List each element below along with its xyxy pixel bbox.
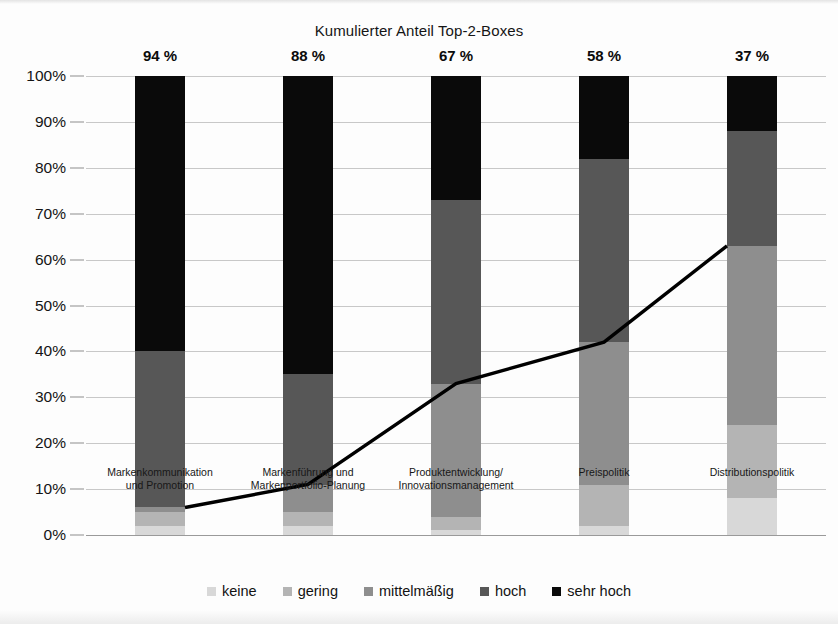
x-axis-label-line: Markenportfolio-Planung — [228, 479, 388, 492]
y-tick-label: 70% — [0, 205, 66, 223]
legend-item-hoch[interactable]: hoch — [480, 583, 526, 599]
bar-segment-gering[interactable] — [135, 512, 185, 526]
x-axis-label-5: Distributionspolitik — [672, 466, 832, 479]
y-tick-label: 0% — [0, 526, 66, 544]
y-tick-mark — [70, 305, 84, 306]
y-tick-label: 10% — [0, 480, 66, 498]
legend-item-sehr-hoch[interactable]: sehr hoch — [552, 583, 631, 599]
y-tick-label: 80% — [0, 159, 66, 177]
x-axis-label-line: Markenkommunikation — [80, 466, 240, 479]
x-axis-label-line: und Promotion — [80, 479, 240, 492]
bar-segment-hoch[interactable] — [431, 200, 481, 384]
x-axis-label-line: Produktentwicklung/ — [376, 466, 536, 479]
bar-segment-keine[interactable] — [135, 526, 185, 535]
chart-page: Kumulierter Anteil Top-2-Boxes 0%10%20%3… — [0, 0, 838, 624]
y-tick-mark — [70, 351, 84, 352]
bar-segment-gering[interactable] — [579, 485, 629, 526]
bar-value-label: 37 % — [697, 47, 807, 64]
legend-swatch-icon — [364, 587, 373, 596]
bar-segment-sehr-hoch[interactable] — [579, 76, 629, 159]
legend-label: hoch — [495, 583, 526, 599]
y-tick-mark — [70, 76, 84, 77]
bar-segment-sehr-hoch[interactable] — [135, 76, 185, 351]
legend-swatch-icon — [480, 587, 489, 596]
y-tick-label: 50% — [0, 297, 66, 315]
bar-segment-mittelmäßig[interactable] — [579, 342, 629, 484]
gridline — [86, 535, 826, 536]
y-tick-mark — [70, 397, 84, 398]
y-tick-mark — [70, 535, 84, 536]
legend-label: mittelmäßig — [379, 583, 454, 599]
legend-item-gering[interactable]: gering — [283, 583, 338, 599]
bar-segment-keine[interactable] — [431, 530, 481, 535]
legend-label: gering — [298, 583, 338, 599]
x-axis-label-4: Preispolitik — [524, 466, 684, 479]
x-axis-label-line: Markenführung und — [228, 466, 388, 479]
legend-swatch-icon — [283, 587, 292, 596]
bar-segment-gering[interactable] — [431, 517, 481, 531]
bar-segment-gering[interactable] — [283, 512, 333, 526]
chart-title: Kumulierter Anteil Top-2-Boxes — [0, 22, 838, 39]
legend-label: sehr hoch — [567, 583, 631, 599]
bar-segment-keine[interactable] — [579, 526, 629, 535]
y-tick-mark — [70, 213, 84, 214]
y-tick-mark — [70, 121, 84, 122]
chart-legend: keinegeringmittelmäßighochsehr hoch — [0, 583, 838, 599]
y-tick-label: 30% — [0, 388, 66, 406]
x-axis-label-2: Markenführung undMarkenportfolio-Planung — [228, 466, 388, 492]
x-axis-label-line: Innovationsmanagement — [376, 479, 536, 492]
bar-value-label: 67 % — [401, 47, 511, 64]
bar-segment-mittelmäßig[interactable] — [135, 507, 185, 512]
legend-label: keine — [222, 583, 257, 599]
legend-swatch-icon — [552, 587, 561, 596]
bar-segment-gering[interactable] — [727, 425, 777, 498]
y-tick-label: 60% — [0, 251, 66, 269]
bar-segment-sehr-hoch[interactable] — [727, 76, 777, 131]
y-tick-label: 90% — [0, 113, 66, 131]
bar-segment-sehr-hoch[interactable] — [431, 76, 481, 200]
bar-segment-hoch[interactable] — [579, 159, 629, 343]
bar-segment-sehr-hoch[interactable] — [283, 76, 333, 374]
bar-segment-keine[interactable] — [727, 498, 777, 535]
x-axis-label-line: Preispolitik — [524, 466, 684, 479]
y-tick-label: 40% — [0, 342, 66, 360]
legend-item-mittelmäßig[interactable]: mittelmäßig — [364, 583, 454, 599]
y-tick-mark — [70, 259, 84, 260]
y-tick-label: 100% — [0, 67, 66, 85]
legend-swatch-icon — [207, 587, 216, 596]
y-tick-label: 20% — [0, 434, 66, 452]
bar-value-label: 94 % — [105, 47, 215, 64]
y-tick-mark — [70, 443, 84, 444]
bar-segment-hoch[interactable] — [727, 131, 777, 246]
bar-value-label: 88 % — [253, 47, 363, 64]
x-axis-label-1: Markenkommunikationund Promotion — [80, 466, 240, 492]
y-tick-mark — [70, 167, 84, 168]
bar-segment-mittelmäßig[interactable] — [431, 384, 481, 517]
x-axis-label-3: Produktentwicklung/Innovationsmanagement — [376, 466, 536, 492]
bar-segment-keine[interactable] — [283, 526, 333, 535]
bar-segment-mittelmäßig[interactable] — [727, 246, 777, 425]
bar-value-label: 58 % — [549, 47, 659, 64]
legend-item-keine[interactable]: keine — [207, 583, 257, 599]
x-axis-label-line: Distributionspolitik — [672, 466, 832, 479]
